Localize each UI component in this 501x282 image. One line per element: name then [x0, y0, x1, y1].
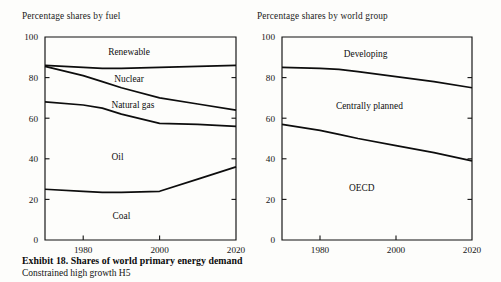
band-label-developing: Developing — [344, 49, 388, 59]
y-tick-label: 80 — [266, 73, 276, 83]
panel-title-fuel: Percentage shares by fuel — [22, 11, 121, 21]
figure-caption: Exhibit 18. Shares of world primary ener… — [22, 255, 492, 279]
band-label-nuclear: Nuclear — [114, 74, 145, 84]
band-label-centrally-planned: Centrally planned — [336, 101, 403, 111]
band-label-oil: Oil — [112, 152, 124, 162]
band-label-oecd: OECD — [349, 183, 375, 193]
y-tick-label: 60 — [29, 114, 39, 124]
y-tick-label: 40 — [29, 154, 39, 164]
chart-panel-group: Percentage shares by world group 0204060… — [245, 0, 501, 258]
y-tick-label: 80 — [29, 73, 39, 83]
y-tick-label: 0 — [270, 235, 275, 245]
chart-group: 020406080100198020002020DevelopingCentra… — [245, 26, 501, 258]
y-tick-label: 20 — [29, 195, 39, 205]
x-tick-label: 1980 — [74, 245, 93, 255]
x-tick-label: 2020 — [463, 245, 482, 255]
y-tick-label: 20 — [266, 195, 276, 205]
y-tick-label: 100 — [261, 32, 275, 42]
x-tick-label: 2000 — [150, 245, 169, 255]
series-boundary-centrally-planned — [282, 67, 472, 87]
band-label-coal: Coal — [113, 211, 131, 221]
y-tick-label: 0 — [33, 235, 38, 245]
series-boundary-coal — [45, 167, 236, 192]
caption-sub: Constrained high growth H5 — [22, 267, 492, 279]
x-tick-label: 2000 — [387, 245, 406, 255]
x-tick-label: 2020 — [227, 245, 246, 255]
series-boundary-nuclear — [45, 65, 236, 68]
x-tick-label: 1980 — [311, 245, 330, 255]
band-label-natural-gas: Natural gas — [111, 100, 154, 110]
panel-title-group: Percentage shares by world group — [257, 11, 388, 21]
chart-panel-fuel: Percentage shares by fuel 02040608010019… — [0, 0, 250, 258]
figure-root: Percentage shares by fuel 02040608010019… — [0, 0, 501, 282]
y-tick-label: 60 — [266, 114, 276, 124]
chart-fuel: 020406080100198020002020RenewableNuclear… — [0, 26, 250, 258]
y-tick-label: 100 — [24, 32, 38, 42]
band-label-renewable: Renewable — [108, 47, 150, 57]
y-tick-label: 40 — [266, 154, 276, 164]
series-boundary-oecd — [282, 124, 472, 161]
caption-main: Exhibit 18. Shares of world primary ener… — [22, 255, 492, 267]
